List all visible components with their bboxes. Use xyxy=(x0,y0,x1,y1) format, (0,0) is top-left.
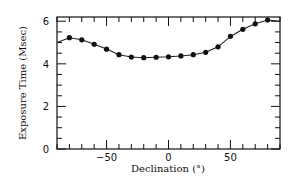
y-tick-label: 4 xyxy=(43,59,49,70)
x-tick-label: 50 xyxy=(224,152,237,163)
data-point xyxy=(240,27,245,32)
data-point xyxy=(166,54,171,59)
data-point xyxy=(228,34,233,39)
data-point xyxy=(215,44,220,49)
data-point xyxy=(79,37,84,42)
axis-ticks xyxy=(57,17,280,149)
x-tick-label: 0 xyxy=(165,152,171,163)
data-point xyxy=(253,21,258,26)
data-point xyxy=(92,42,97,47)
data-point xyxy=(104,47,109,52)
data-point xyxy=(154,55,159,60)
y-tick-label: 6 xyxy=(43,16,49,27)
y-tick-label: 0 xyxy=(43,144,49,155)
plot-border xyxy=(57,17,280,149)
data-point xyxy=(265,17,270,22)
data-point xyxy=(178,53,183,58)
exposure-time-chart: −500500246 Declination (°) Exposure Time… xyxy=(0,0,294,186)
data-point xyxy=(67,35,72,40)
x-axis-title: Declination (°) xyxy=(131,163,205,174)
y-tick-label: 2 xyxy=(43,101,49,112)
data-point xyxy=(129,54,134,59)
x-tick-label: −50 xyxy=(96,152,117,163)
data-point xyxy=(141,55,146,60)
data-point xyxy=(191,52,196,57)
y-axis-title: Exposure Time (Msec) xyxy=(17,26,28,140)
plot-frame xyxy=(57,17,280,149)
data-point xyxy=(116,52,121,57)
data-point xyxy=(203,50,208,55)
